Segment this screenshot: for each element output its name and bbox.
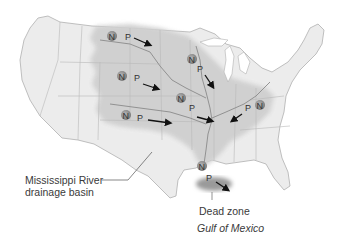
svg-text:P: P — [197, 64, 203, 74]
svg-text:P: P — [245, 103, 251, 113]
us-map: N P N P N P N P N P — [0, 0, 352, 243]
svg-text:P: P — [125, 32, 131, 42]
svg-text:N: N — [199, 162, 206, 172]
svg-text:P: P — [206, 173, 212, 183]
svg-text:N: N — [119, 72, 126, 82]
svg-text:P: P — [189, 103, 195, 113]
svg-text:N: N — [178, 94, 185, 104]
svg-text:P: P — [134, 73, 140, 83]
svg-text:N: N — [123, 111, 130, 121]
svg-text:N: N — [257, 101, 264, 111]
svg-text:N: N — [189, 55, 196, 65]
basin-label-line1: Mississippi River — [25, 174, 103, 186]
gulf-label: Gulf of Mexico — [197, 222, 264, 234]
basin-label-line2: drainage basin — [25, 186, 103, 198]
svg-text:N: N — [109, 32, 116, 42]
dead-zone-label: Dead zone — [199, 205, 250, 217]
svg-text:P: P — [137, 113, 143, 123]
basin-label: Mississippi River drainage basin — [25, 174, 103, 198]
